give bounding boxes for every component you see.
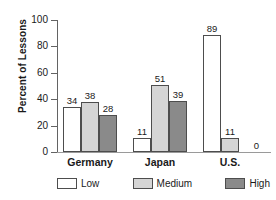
- bar-germany-low: 34: [63, 107, 81, 152]
- legend-label-high: High: [249, 177, 270, 190]
- bar-value-japan-low: 11: [137, 126, 147, 138]
- legend-label-low: Low: [81, 177, 99, 190]
- plot-area: 34 38 28 11 51 39 89 11 0: [57, 20, 270, 152]
- y-tick-label-100: 100: [31, 13, 48, 26]
- y-tick-label-80: 80: [37, 39, 48, 52]
- y-tick-label-40: 40: [37, 92, 48, 105]
- legend-item-high: High: [225, 177, 270, 190]
- category-label-japan: Japan: [145, 155, 175, 169]
- bar-japan-low: 11: [133, 138, 151, 153]
- bar-chart: Percent of Lessons 100 80 60 40 20 0 34 …: [0, 0, 276, 200]
- bar-value-japan-medium: 51: [155, 73, 166, 85]
- bar-value-japan-high: 39: [173, 89, 184, 101]
- bar-germany-high: 28: [99, 115, 117, 152]
- legend-item-medium: Medium: [133, 177, 193, 190]
- bar-value-us-high: 0: [254, 140, 259, 152]
- x-axis-line: [57, 152, 271, 153]
- category-label-us: U.S.: [220, 155, 240, 169]
- legend-label-medium: Medium: [157, 177, 193, 190]
- category-label-germany: Germany: [67, 155, 113, 169]
- legend-swatch-high-icon: [225, 178, 245, 189]
- bar-japan-high: 39: [169, 101, 187, 153]
- bar-germany-medium: 38: [81, 102, 99, 152]
- bar-us-low: 89: [203, 35, 221, 153]
- legend: Low Medium High: [57, 177, 270, 190]
- legend-swatch-medium-icon: [133, 178, 153, 189]
- bar-value-germany-high: 28: [103, 103, 114, 115]
- bar-value-germany-low: 34: [67, 95, 78, 107]
- bar-value-germany-medium: 38: [85, 90, 96, 102]
- y-tick-label-60: 60: [37, 66, 48, 79]
- bar-value-us-low: 89: [207, 23, 218, 35]
- bar-japan-medium: 51: [151, 85, 169, 152]
- bar-value-us-medium: 11: [225, 126, 235, 138]
- y-tick-0: 0: [51, 152, 57, 153]
- y-tick-label-20: 20: [37, 119, 48, 132]
- y-tick-label-0: 0: [42, 145, 48, 158]
- y-axis-title: Percent of Lessons: [14, 0, 32, 146]
- legend-item-low: Low: [57, 177, 99, 190]
- bar-us-medium: 11: [221, 138, 239, 153]
- legend-swatch-low-icon: [57, 178, 77, 189]
